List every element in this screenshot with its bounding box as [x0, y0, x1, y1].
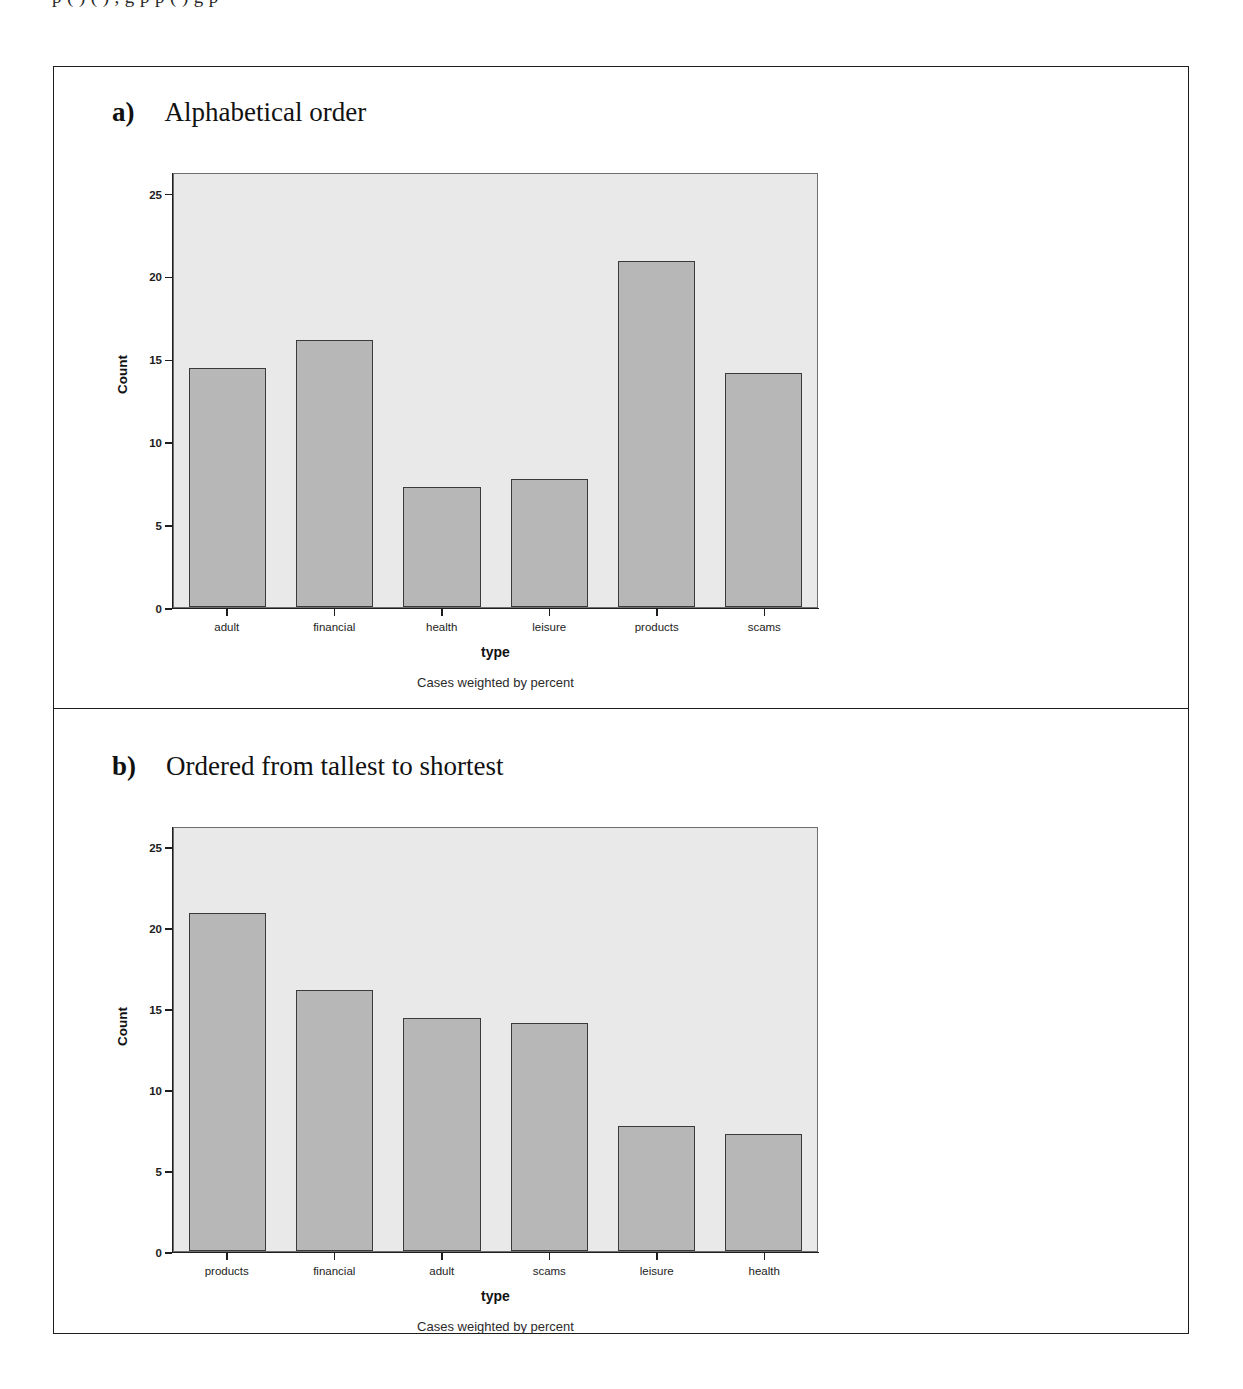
y-tick-mark [165, 442, 172, 444]
bar-scams [511, 1023, 588, 1251]
y-tick-mark [165, 1171, 172, 1173]
y-tick-mark [165, 1009, 172, 1011]
figure-frame: a) Alphabetical order 0510152025 Count a… [53, 66, 1189, 1334]
x-tick-mark [334, 609, 336, 616]
bar-slot [388, 828, 495, 1251]
y-tick-label: 15 [149, 354, 162, 366]
y-tick-label: 5 [156, 1166, 162, 1178]
bar-slot [388, 174, 495, 607]
y-axis-title-a: Count [115, 355, 130, 394]
x-tick-label-products: products [205, 1265, 249, 1277]
y-tick-label: 0 [156, 1247, 162, 1259]
bars-row-a [174, 174, 817, 607]
y-tick: 25 [149, 842, 172, 854]
y-tick: 5 [156, 1166, 172, 1178]
y-tick-label: 0 [156, 603, 162, 615]
bar-financial [296, 340, 373, 607]
x-tick-mark [441, 1253, 443, 1260]
y-tick-mark [165, 525, 172, 527]
y-tick: 10 [149, 1085, 172, 1097]
x-tick-cell: products [603, 609, 711, 633]
bar-products [618, 261, 695, 607]
y-tick-mark [165, 194, 172, 196]
x-tick-cell: health [388, 609, 496, 633]
x-tick-cell: financial [281, 1253, 389, 1277]
x-tick-label-leisure: leisure [640, 1265, 674, 1277]
bar-slot [710, 174, 817, 607]
y-tick-mark [165, 608, 172, 610]
x-tick-mark [764, 1253, 766, 1260]
x-tick-cell: scams [711, 609, 819, 633]
x-tick-label-health: health [749, 1265, 780, 1277]
y-axis-title-b: Count [115, 1007, 130, 1046]
x-tick-mark [226, 609, 228, 616]
x-tick-label-products: products [635, 621, 679, 633]
x-tick-label-health: health [426, 621, 457, 633]
x-tick-label-leisure: leisure [532, 621, 566, 633]
x-tick-cell: leisure [496, 609, 604, 633]
bar-slot [603, 828, 710, 1251]
x-ticks-a: adultfinancialhealthleisureproductsscams [173, 609, 818, 633]
bar-health [403, 487, 480, 607]
y-tick: 10 [149, 437, 172, 449]
x-tick-mark [549, 609, 551, 616]
bar-leisure [511, 479, 588, 607]
x-tick-mark [764, 609, 766, 616]
bar-slot [174, 828, 281, 1251]
x-axis-title-b: type [173, 1288, 818, 1304]
bars-row-b [174, 828, 817, 1251]
x-tick-cell: adult [388, 1253, 496, 1277]
bar-leisure [618, 1126, 695, 1251]
x-axis-title-a: type [173, 644, 818, 660]
x-tick-mark [656, 609, 658, 616]
x-tick-cell: health [711, 1253, 819, 1277]
y-tick: 0 [156, 603, 172, 615]
x-tick-label-financial: financial [313, 621, 355, 633]
plot-area-a [173, 173, 818, 608]
x-tick-label-adult: adult [214, 621, 239, 633]
y-tick-mark [165, 847, 172, 849]
bar-health [725, 1134, 802, 1251]
y-tick: 20 [149, 923, 172, 935]
bar-slot [281, 174, 388, 607]
bar-slot [603, 174, 710, 607]
chart-footnote-a: Cases weighted by percent [173, 675, 818, 690]
x-tick-cell: financial [281, 609, 389, 633]
x-tick-cell: scams [496, 1253, 604, 1277]
y-tick-mark [165, 928, 172, 930]
y-tick: 0 [156, 1247, 172, 1259]
x-tick-label-financial: financial [313, 1265, 355, 1277]
chart-footnote-b: Cases weighted by percent [173, 1319, 818, 1334]
y-tick-label: 10 [149, 1085, 162, 1097]
y-tick-label: 5 [156, 520, 162, 532]
plot-area-b [173, 827, 818, 1252]
x-tick-mark [226, 1253, 228, 1260]
x-tick-label-scams: scams [533, 1265, 566, 1277]
bar-slot [281, 828, 388, 1251]
x-tick-cell: products [173, 1253, 281, 1277]
y-axis-line-b [172, 827, 173, 1253]
bar-slot [174, 174, 281, 607]
bar-adult [189, 368, 266, 607]
bar-slot [710, 828, 817, 1251]
cut-off-text-sliver: p ( ) ( ) , g p p ( ) g p [0, 0, 1243, 8]
bar-slot [496, 828, 603, 1251]
x-tick-mark [441, 609, 443, 616]
y-tick-mark [165, 1090, 172, 1092]
chart-a: 0510152025 Count adultfinancialhealthlei… [54, 67, 1188, 708]
figure-panel-b: b) Ordered from tallest to shortest 0510… [54, 709, 1188, 1333]
figure-panel-a: a) Alphabetical order 0510152025 Count a… [54, 67, 1188, 709]
x-tick-cell: leisure [603, 1253, 711, 1277]
bar-products [189, 913, 266, 1251]
y-tick-label: 20 [149, 923, 162, 935]
y-tick-label: 10 [149, 437, 162, 449]
y-tick-mark [165, 360, 172, 362]
x-tick-cell: adult [173, 609, 281, 633]
x-tick-label-adult: adult [429, 1265, 454, 1277]
y-tick-label: 25 [149, 842, 162, 854]
y-tick: 20 [149, 271, 172, 283]
chart-b: 0510152025 Count productsfinancialadults… [54, 709, 1188, 1333]
x-tick-mark [656, 1253, 658, 1260]
bar-financial [296, 990, 373, 1251]
y-tick: 5 [156, 520, 172, 532]
